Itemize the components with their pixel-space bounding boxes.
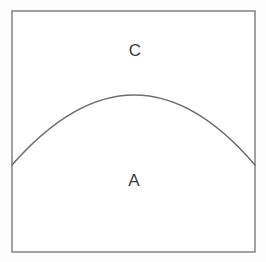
- figure-canvas: C A: [0, 0, 266, 262]
- region-label-a: A: [128, 171, 140, 190]
- region-label-c: C: [129, 41, 141, 60]
- geometry-figure: C A: [0, 0, 266, 262]
